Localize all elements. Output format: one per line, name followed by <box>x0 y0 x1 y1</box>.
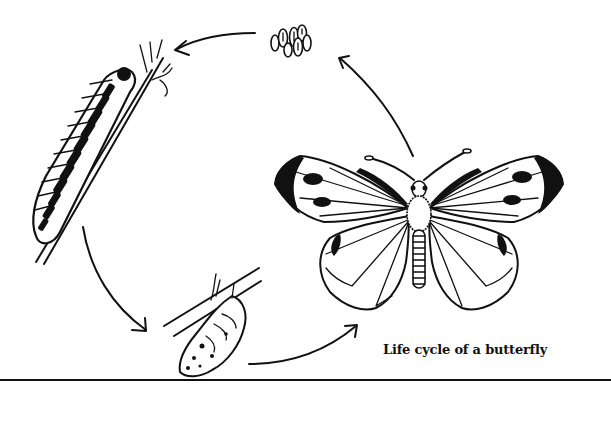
arrow-pupa-to-butterfly <box>249 325 357 364</box>
arrow-caterpillar-to-pupa <box>83 227 146 331</box>
caterpillar-illustration <box>33 67 135 243</box>
diagram-canvas <box>0 0 611 424</box>
diagram-caption: Life cycle of a butterfly <box>383 342 547 357</box>
arrow-eggs-to-caterpillar <box>175 33 255 55</box>
horizontal-divider <box>0 379 611 381</box>
eggs-illustration <box>271 25 311 57</box>
life-cycle-diagram: Life cycle of a butterfly <box>0 0 611 424</box>
butterfly-illustration <box>275 149 563 309</box>
arrow-butterfly-to-eggs <box>339 56 413 156</box>
pupa-illustration <box>180 284 246 376</box>
